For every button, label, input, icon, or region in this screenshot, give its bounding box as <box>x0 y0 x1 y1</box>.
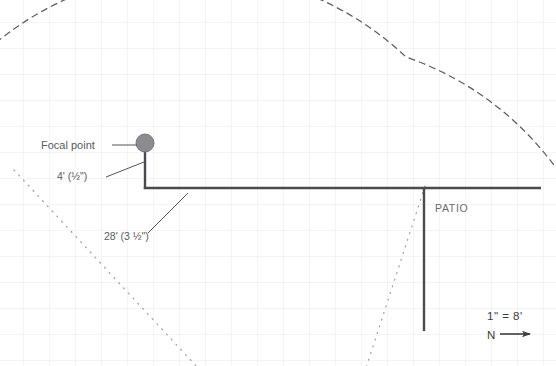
site-plan-drawing: Focal point 4' (½") 28' (3 ½") PATIO 1" … <box>0 0 556 366</box>
patio-label: PATIO <box>435 202 468 214</box>
north-label: N <box>487 329 496 341</box>
focal-point-label: Focal point <box>41 139 95 151</box>
focal-point-marker <box>136 134 154 152</box>
site-plan-canvas: Focal point 4' (½") 28' (3 ½") PATIO 1" … <box>0 0 556 366</box>
dimension-label-long: 28' (3 ½") <box>104 230 149 242</box>
scale-label: 1" = 8' <box>487 310 523 322</box>
dimension-label-short: 4' (½") <box>57 170 87 182</box>
graph-paper-grid <box>0 0 556 366</box>
